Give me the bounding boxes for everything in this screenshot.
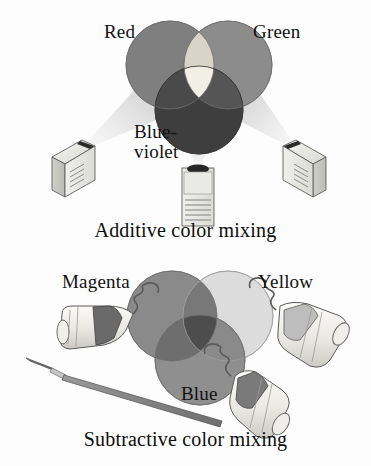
additive-caption: Additive color mixing <box>0 219 371 242</box>
label-blue: Blue <box>181 384 218 404</box>
label-blue-violet-line2: violet <box>134 142 178 162</box>
subtractive-caption: Subtractive color mixing <box>0 428 371 451</box>
projector-left <box>52 140 95 197</box>
label-yellow: Yellow <box>258 272 313 292</box>
projector-right <box>283 140 326 197</box>
label-red: Red <box>104 22 135 42</box>
subtractive-color-mixing-panel: Magenta Yellow Blue Subtractive color mi… <box>0 248 371 466</box>
color-mixing-figure: Additive and subtractive color mixing <box>0 0 371 466</box>
additive-diagram-graphic <box>0 0 371 248</box>
projector-center <box>182 165 214 227</box>
additive-color-mixing-panel: Red Green Blue- violet Additive color mi… <box>0 0 371 248</box>
label-green: Green <box>253 22 300 42</box>
label-magenta: Magenta <box>62 272 130 292</box>
label-blue-violet-line1: Blue- <box>134 122 177 142</box>
